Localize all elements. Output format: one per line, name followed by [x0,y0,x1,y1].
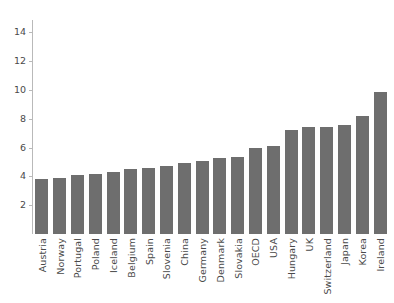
bar [374,92,387,234]
bar [338,125,351,234]
x-axis-label-slot: Spain [140,236,158,302]
bar [89,174,102,234]
bar [231,157,244,234]
bar-slot [371,18,389,234]
y-axis-tick-label: 4 [0,171,26,181]
bar [285,130,298,234]
x-axis-label-slot: Iceland [104,236,122,302]
bar-slot [86,18,104,234]
y-axis-tick-mark [29,148,32,149]
bar [142,168,155,234]
x-axis-label-slot: Slovakia [229,236,247,302]
x-axis-label-slot: Austria [33,236,51,302]
y-axis-tick-label: 6 [0,143,26,153]
bar [124,169,137,234]
bar [249,148,262,234]
y-axis-tick-mark [29,119,32,120]
bar-slot [51,18,69,234]
bar-slot [264,18,282,234]
bar-slot [122,18,140,234]
x-axis-label-slot: China [175,236,193,302]
y-axis-tick-label: 14 [0,27,26,37]
bar [71,175,84,234]
bar-slot [318,18,336,234]
bar [302,127,315,234]
x-axis-tick-label: Iceland [108,238,119,273]
bar [53,178,66,234]
bar-slot [175,18,193,234]
bar-slot [353,18,371,234]
bar-slot [33,18,51,234]
bar [213,158,226,234]
y-axis-tick-mark [29,61,32,62]
bar-slot [69,18,87,234]
x-axis-tick-label: Japan [339,238,350,265]
x-axis-tick-label: Hungary [286,238,297,279]
bar-slot [158,18,176,234]
x-axis-tick-label: Belgium [126,238,137,278]
x-axis-tick-label: Poland [90,238,101,270]
y-axis-tick-mark [29,176,32,177]
x-axis-tick-label: China [179,238,190,266]
x-axis-label-slot: Switzerland [318,236,336,302]
x-axis-tick-label: USA [268,238,279,258]
x-axis-label-slot: Korea [353,236,371,302]
x-axis-tick-label: Denmark [215,238,226,282]
bar-slot [336,18,354,234]
x-axis-label-slot: Germany [193,236,211,302]
bar [320,127,333,234]
y-axis-tick-label: 8 [0,114,26,124]
x-axis-label-slot: Hungary [282,236,300,302]
bar-series [33,18,389,234]
bar-slot [211,18,229,234]
x-axis-label-slot: Norway [51,236,69,302]
x-axis-tick-label: Germany [197,238,208,282]
bar [356,116,369,234]
x-axis-tick-label: Slovenia [161,238,172,279]
y-axis-tick-mark [29,205,32,206]
x-axis-tick-label: Austria [37,238,48,272]
x-axis-tick-label: UK [304,238,315,251]
x-axis-label-slot: Poland [86,236,104,302]
x-axis-tick-label: Korea [357,238,368,265]
bar [107,172,120,234]
x-axis-tick-label: Slovakia [233,238,244,279]
x-axis-label-slot: Slovenia [158,236,176,302]
x-axis-label-slot: Ireland [371,236,389,302]
x-axis-tick-label: Ireland [375,238,386,272]
x-axis-label-slot: Belgium [122,236,140,302]
y-axis-tick-label: 2 [0,200,26,210]
x-axis-tick-label: OECD [250,238,261,266]
bar [160,166,173,234]
x-axis-tick-label: Spain [144,238,155,265]
x-axis-label-slot: USA [264,236,282,302]
x-axis-tick-label: Switzerland [322,238,333,295]
bar [196,161,209,234]
y-axis-tick-label: 12 [0,56,26,66]
bar-chart: 2468101214 AustriaNorwayPortugalPolandIc… [0,0,394,303]
bar [35,179,48,234]
bar-slot [193,18,211,234]
bar-slot [300,18,318,234]
x-axis-label-slot: UK [300,236,318,302]
x-axis-tick-label: Norway [55,238,66,275]
x-axis-label-slot: Denmark [211,236,229,302]
bar-slot [140,18,158,234]
y-axis-tick-mark [29,32,32,33]
bar-slot [104,18,122,234]
x-axis-label-slot: Portugal [69,236,87,302]
x-axis-label-slot: Japan [336,236,354,302]
y-axis-tick-label: 10 [0,85,26,95]
y-axis-tick-mark [29,90,32,91]
x-axis-tick-label: Portugal [72,238,83,278]
bar [267,146,280,234]
bar [178,163,191,234]
bar-slot [229,18,247,234]
bar-slot [282,18,300,234]
x-axis-label-group: AustriaNorwayPortugalPolandIcelandBelgiu… [33,236,389,302]
bar-slot [247,18,265,234]
x-axis-label-slot: OECD [247,236,265,302]
